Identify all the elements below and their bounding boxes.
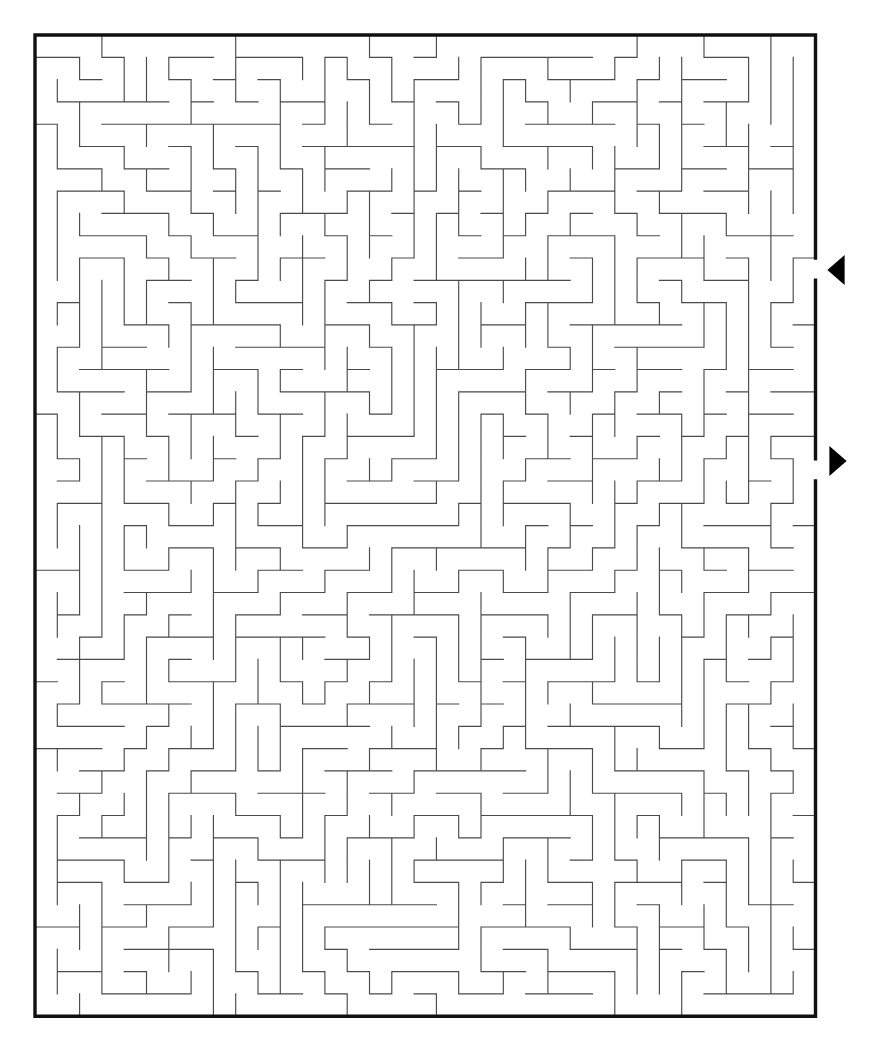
entrance-arrow-icon [827,255,844,285]
maze-page: A black and white rectangular maze with … [0,0,890,1051]
exit-arrow-icon [829,446,846,476]
maze-interior-walls [35,35,816,1016]
maze-markers [827,255,846,476]
maze-canvas [0,0,890,1051]
maze-wall-path [35,35,816,1016]
